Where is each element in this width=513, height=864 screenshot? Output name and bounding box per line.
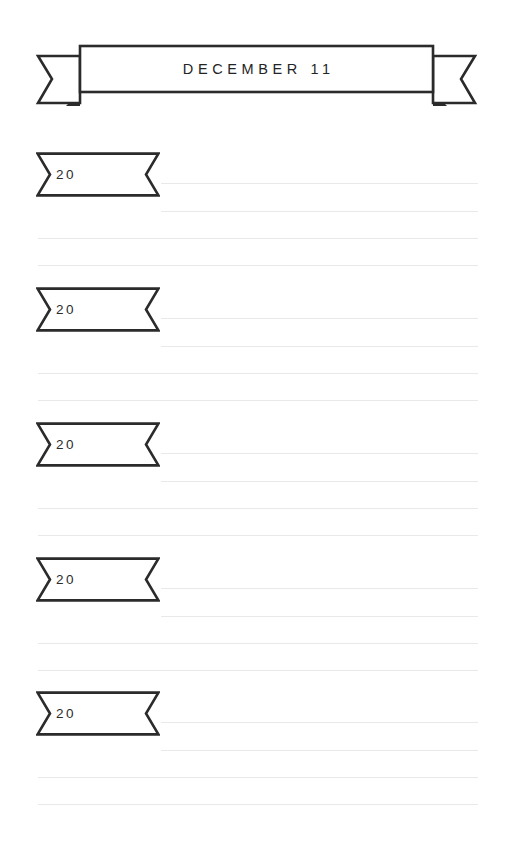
writing-line[interactable] [161, 481, 478, 482]
year-label[interactable]: 20 [56, 691, 136, 736]
writing-line[interactable] [38, 535, 478, 536]
writing-line[interactable] [161, 346, 478, 347]
writing-line[interactable] [38, 400, 478, 401]
writing-line[interactable] [161, 588, 478, 589]
writing-line[interactable] [161, 183, 478, 184]
writing-line[interactable] [38, 508, 478, 509]
writing-line[interactable] [38, 238, 478, 239]
writing-line[interactable] [38, 777, 478, 778]
writing-line[interactable] [161, 453, 478, 454]
year-entry: 20 [0, 691, 513, 826]
writing-line[interactable] [38, 265, 478, 266]
year-entry: 20 [0, 557, 513, 692]
writing-line[interactable] [38, 670, 478, 671]
year-label[interactable]: 20 [56, 422, 136, 467]
year-label[interactable]: 20 [56, 557, 136, 602]
entry-list: 2020202020 [0, 0, 513, 864]
year-entry: 20 [0, 422, 513, 557]
writing-line[interactable] [161, 722, 478, 723]
writing-line[interactable] [38, 643, 478, 644]
writing-line[interactable] [161, 616, 478, 617]
year-label[interactable]: 20 [56, 152, 136, 197]
writing-line[interactable] [161, 750, 478, 751]
writing-line[interactable] [161, 211, 478, 212]
writing-line[interactable] [38, 373, 478, 374]
year-entry: 20 [0, 287, 513, 422]
year-label[interactable]: 20 [56, 287, 136, 332]
writing-line[interactable] [161, 318, 478, 319]
writing-line[interactable] [38, 804, 478, 805]
journal-page: DECEMBER 11 2020202020 [0, 0, 513, 864]
year-entry: 20 [0, 152, 513, 287]
